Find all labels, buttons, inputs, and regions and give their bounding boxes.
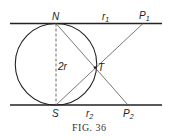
label-T: T: [98, 62, 105, 73]
geometry-figure: N S T 2r r1 r2 P1 P2 FIG. 36: [0, 0, 173, 140]
label-N: N: [52, 11, 60, 22]
point-T: [94, 66, 96, 68]
label-S: S: [52, 108, 59, 119]
label-P2: P2: [123, 108, 134, 120]
label-r1: r1: [102, 11, 109, 23]
figure-caption: FIG. 36: [72, 122, 107, 133]
label-2r: 2r: [57, 61, 68, 72]
label-P1: P1: [139, 10, 150, 22]
label-r2: r2: [86, 108, 93, 120]
